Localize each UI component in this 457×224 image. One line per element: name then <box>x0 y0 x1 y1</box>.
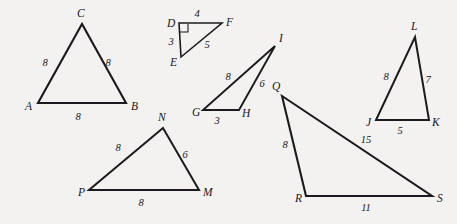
triangle-group-qrs: QRS81511 <box>272 80 443 213</box>
triangle-qrs-outline <box>282 96 432 196</box>
geometry-figure: ABC888DEF435GHI863PMN868QRS81511JKL875 <box>0 0 457 224</box>
vertex-label-p: P <box>77 186 85 198</box>
vertex-label-k: K <box>431 116 441 128</box>
vertex-label-i: I <box>278 32 284 44</box>
side-length-label-abc-1: 8 <box>105 57 111 68</box>
triangle-group-jkl: JKL875 <box>366 20 441 136</box>
side-length-label-def-0: 4 <box>194 8 200 19</box>
side-length-label-jkl-1: 7 <box>425 74 431 85</box>
vertex-label-a: A <box>24 100 33 112</box>
vertex-label-l: L <box>410 20 417 32</box>
triangle-group-abc: ABC888 <box>24 7 138 122</box>
side-length-label-ghi-1: 6 <box>259 78 265 89</box>
triangle-group-pnm: PMN868 <box>77 111 214 208</box>
vertex-label-g: G <box>192 106 201 118</box>
vertex-label-q: Q <box>272 80 281 92</box>
side-length-label-jkl-0: 8 <box>383 71 389 82</box>
vertex-label-s: S <box>437 192 443 204</box>
vertex-label-b: B <box>131 100 138 112</box>
vertex-label-d: D <box>166 17 176 29</box>
side-length-label-abc-0: 8 <box>42 57 48 68</box>
side-length-label-pnm-2: 8 <box>138 197 144 208</box>
vertex-label-m: M <box>202 186 214 198</box>
side-length-label-pnm-0: 8 <box>115 142 121 153</box>
triangle-def-right-angle-icon <box>180 24 188 32</box>
side-length-label-qrs-1: 15 <box>361 134 372 145</box>
side-length-label-pnm-1: 6 <box>182 149 188 160</box>
vertex-label-r: R <box>294 192 302 204</box>
vertex-label-j: J <box>366 116 372 128</box>
vertex-label-f: F <box>225 16 234 28</box>
side-length-label-qrs-0: 8 <box>282 139 288 150</box>
side-length-label-ghi-2: 3 <box>213 115 219 126</box>
side-length-label-abc-2: 8 <box>75 111 81 122</box>
vertex-label-h: H <box>241 107 251 119</box>
vertex-label-n: N <box>157 111 167 123</box>
triangle-abc-outline <box>38 24 126 103</box>
vertex-label-c: C <box>77 7 85 19</box>
side-length-label-jkl-2: 5 <box>397 125 402 136</box>
side-length-label-def-1: 3 <box>167 36 173 47</box>
vertex-label-e: E <box>169 56 177 68</box>
triangle-group-def: DEF435 <box>166 8 234 68</box>
side-length-label-def-2: 5 <box>204 39 209 50</box>
side-length-label-ghi-0: 8 <box>225 71 231 82</box>
side-length-label-qrs-2: 11 <box>361 202 371 213</box>
triangles-canvas: ABC888DEF435GHI863PMN868QRS81511JKL875 <box>0 0 457 224</box>
triangle-def-outline <box>179 23 222 57</box>
